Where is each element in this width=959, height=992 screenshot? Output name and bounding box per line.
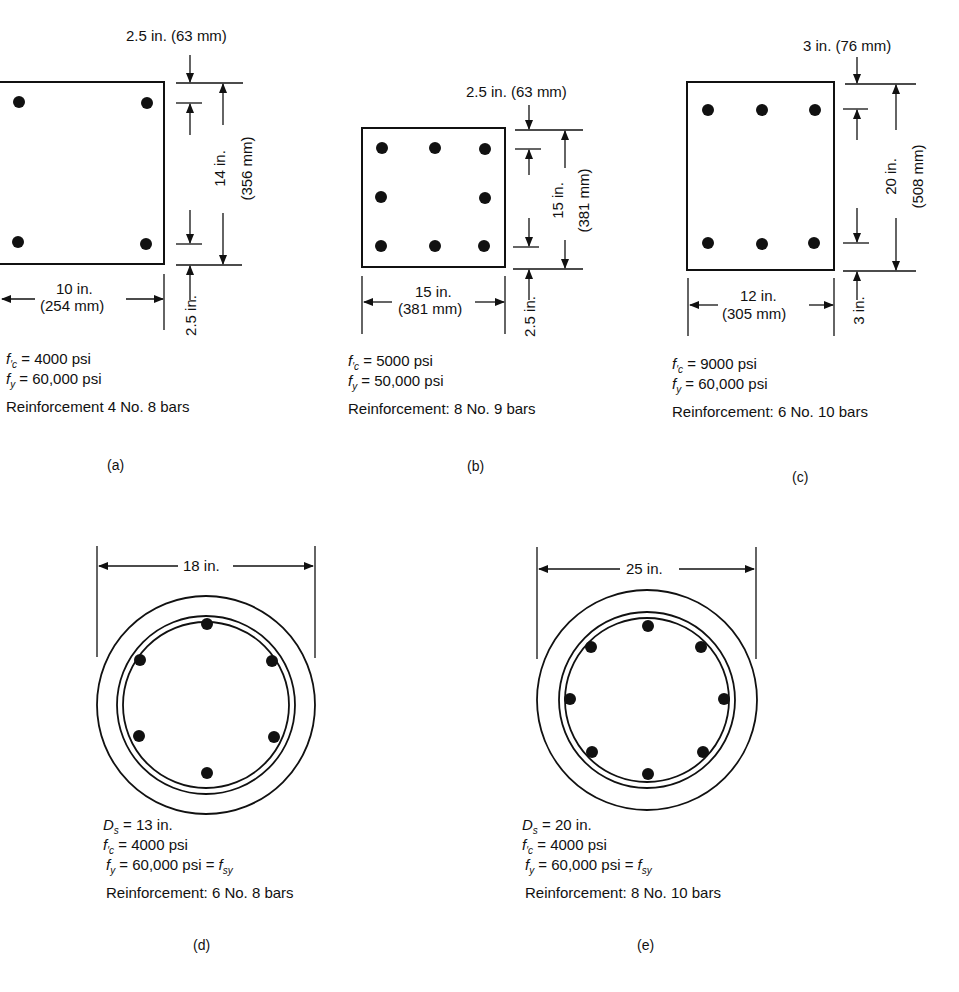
panel-b-caption: (b) [467, 458, 484, 474]
symbol-D: D [103, 816, 114, 833]
panel-a-height-label: 14 in. [211, 134, 228, 204]
panel-e-specs: Ds = 20 in. f′c = 4000 psi fy = 60,000 p… [522, 816, 721, 901]
panel-a-width-label: 10 in. [56, 280, 93, 297]
panel-d-caption: (d) [193, 937, 210, 953]
panel-a-width-label-mm: (254 mm) [40, 297, 104, 314]
symbol-s: s [533, 825, 538, 836]
panel-a-caption: (a) [107, 457, 124, 473]
panel-a-fy: fy = 60,000 psi [6, 370, 189, 390]
panel-b-width-label-mm: (381 mm) [398, 300, 462, 317]
panel-a-cover-top-label: 2.5 in. (63 mm) [126, 27, 227, 44]
panel-c-fc-value: = 9000 psi [687, 355, 757, 372]
panel-a-dimensions [2, 55, 243, 330]
panel-e-bars [564, 620, 730, 780]
symbol-prime-c: ′c [676, 364, 683, 375]
panel-c-specs: f′c = 9000 psi fy = 60,000 psi Reinforce… [672, 355, 868, 420]
panel-d-diameter-label: 18 in. [183, 557, 220, 574]
symbol-prime-c: ′c [526, 845, 533, 856]
symbol-y: y [110, 865, 115, 876]
symbol-y: y [676, 384, 681, 395]
panel-b-fy-value: = 50,000 psi [361, 372, 443, 389]
panel-d-reinforcement: Reinforcement: 6 No. 8 bars [103, 884, 294, 901]
panel-e-fc: f′c = 4000 psi [522, 836, 721, 856]
panel-b-fy: fy = 50,000 psi [348, 372, 536, 392]
panel-e-ds-value: = 20 in. [542, 816, 592, 833]
panel-e-caption: (e) [637, 937, 654, 953]
panel-e-fy-value: = 60,000 psi = [538, 856, 633, 873]
symbol-prime-c: ′c [352, 361, 359, 372]
panel-a-fc: f′c = 4000 psi [6, 350, 189, 370]
panel-d-specs: Ds = 13 in. f′c = 4000 psi fy = 60,000 p… [103, 816, 294, 901]
panel-b-cover-top-label: 2.5 in. (63 mm) [466, 83, 567, 100]
panel-b-width-label: 15 in. [415, 283, 452, 300]
panel-c-width-label-mm: (305 mm) [722, 305, 786, 322]
panel-b-height-label-mm: (381 mm) [575, 161, 592, 241]
panel-a-bars [12, 96, 153, 250]
panel-b-bars [375, 142, 491, 252]
symbol-sy: sy [223, 865, 233, 876]
panel-e-fc-value: = 4000 psi [537, 836, 607, 853]
panel-a-height-label-mm: (356 mm) [238, 129, 255, 209]
panel-d-fy-value: = 60,000 psi = [119, 856, 214, 873]
panel-b-fc-value: = 5000 psi [363, 352, 433, 369]
panel-c-fc: f′c = 9000 psi [672, 355, 868, 375]
panel-d-fy: fy = 60,000 psi = fsy [103, 856, 294, 876]
panel-a-specs: f′c = 4000 psi fy = 60,000 psi Reinforce… [6, 350, 189, 415]
panel-e-reinforcement: Reinforcement: 8 No. 10 bars [522, 884, 721, 901]
panel-d-spiral-inner [123, 622, 289, 788]
panel-b-specs: f′c = 5000 psi fy = 50,000 psi Reinforce… [348, 352, 536, 417]
panel-c-width-label: 12 in. [740, 287, 777, 304]
panel-b-height-label: 15 in. [549, 166, 566, 236]
panel-b-fc: f′c = 5000 psi [348, 352, 536, 372]
panel-d-bars [133, 618, 280, 779]
symbol-s: s [114, 825, 119, 836]
panel-e-fy: fy = 60,000 psi = fsy [522, 856, 721, 876]
panel-c-cover-bottom-label: 3 in. [850, 286, 867, 336]
symbol-prime-c: ′c [10, 359, 17, 370]
symbol-y: y [529, 865, 534, 876]
panel-c-height-label-mm: (508 mm) [909, 137, 926, 217]
symbol-prime-c: ′c [107, 845, 114, 856]
symbol-y: y [352, 381, 357, 392]
panel-a-outline [0, 82, 164, 264]
panel-c-height-label: 20 in. [882, 142, 899, 212]
symbol-y: y [10, 379, 15, 390]
panel-d-ds: Ds = 13 in. [103, 816, 294, 836]
panel-a-section [0, 82, 164, 264]
panel-d-fc-value: = 4000 psi [118, 836, 188, 853]
panel-b-cover-bottom-label: 2.5 in. [521, 287, 538, 347]
panel-d-ds-value: = 13 in. [123, 816, 173, 833]
panel-a-reinforcement: Reinforcement 4 No. 8 bars [6, 398, 189, 415]
panel-c-bars [702, 104, 821, 250]
panel-c-cover-top-label: 3 in. (76 mm) [803, 37, 891, 54]
panel-c-fy: fy = 60,000 psi [672, 375, 868, 395]
panel-c-fy-value: = 60,000 psi [685, 375, 767, 392]
symbol-D: D [522, 816, 533, 833]
panel-a-fc-value: = 4000 psi [21, 350, 91, 367]
panel-c-reinforcement: Reinforcement: 6 No. 10 bars [672, 403, 868, 420]
panel-e-ds: Ds = 20 in. [522, 816, 721, 836]
panel-c-caption: (c) [792, 469, 808, 485]
panel-a-cover-bottom-label: 2.5 in. [182, 286, 199, 346]
panel-d-fc: f′c = 4000 psi [103, 836, 294, 856]
panel-e-diameter-label: 25 in. [626, 560, 663, 577]
panel-a-fy-value: = 60,000 psi [19, 370, 101, 387]
panel-b-reinforcement: Reinforcement: 8 No. 9 bars [348, 400, 536, 417]
symbol-sy: sy [642, 865, 652, 876]
panel-e-spiral-outer [559, 612, 735, 788]
